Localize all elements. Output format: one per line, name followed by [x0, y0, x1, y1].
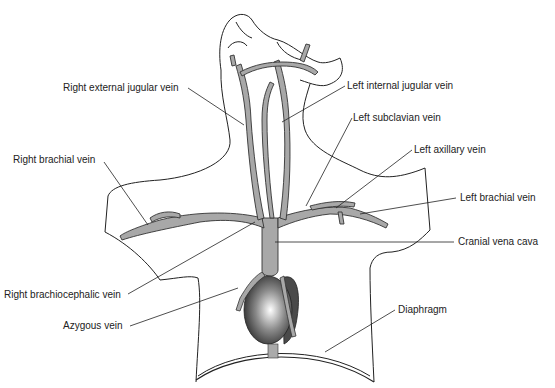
label-left-internal-jugular-vein: Left internal jugular vein — [347, 80, 453, 92]
label-right-brachial-vein: Right brachial vein — [13, 154, 95, 166]
label-right-brachiocephalic-vein: Right brachiocephalic vein — [4, 289, 121, 301]
heart — [236, 272, 298, 358]
label-right-external-jugular-vein: Right external jugular vein — [63, 82, 179, 94]
label-cranial-vena-cava: Cranial vena cava — [458, 236, 538, 248]
label-left-subclavian-vein: Left subclavian vein — [353, 112, 441, 124]
label-left-axillary-vein: Left axillary vein — [414, 144, 486, 156]
veins — [120, 44, 388, 276]
label-azygous-vein: Azygous vein — [63, 320, 122, 332]
label-diaphragm: Diaphragm — [398, 304, 447, 316]
label-left-brachial-vein: Left brachial vein — [460, 192, 536, 204]
